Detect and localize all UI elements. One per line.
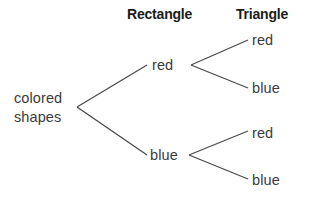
node-rectangle-red: red bbox=[152, 56, 173, 75]
column-header-triangle: Triangle bbox=[236, 6, 288, 22]
column-header-rectangle: Rectangle bbox=[127, 6, 192, 22]
tree-diagram: Rectangle Triangle colored shapes red bl… bbox=[0, 0, 318, 200]
edge-red-to-blue bbox=[191, 65, 248, 88]
node-triangle-red-from-blue: red bbox=[252, 124, 273, 143]
edge-blue-to-blue bbox=[189, 155, 248, 179]
edge-red-to-red bbox=[191, 40, 248, 65]
node-triangle-blue-from-red: blue bbox=[252, 79, 280, 98]
node-triangle-red-from-red: red bbox=[252, 31, 273, 50]
node-root-colored-shapes: colored shapes bbox=[14, 89, 62, 127]
node-rectangle-blue: blue bbox=[150, 146, 178, 165]
node-root-line2: shapes bbox=[14, 108, 62, 127]
node-triangle-blue-from-blue: blue bbox=[252, 171, 280, 190]
edge-blue-to-red bbox=[189, 131, 248, 155]
node-root-line1: colored bbox=[14, 89, 62, 108]
edge-root-to-blue bbox=[77, 107, 147, 155]
edge-root-to-red bbox=[77, 65, 147, 107]
